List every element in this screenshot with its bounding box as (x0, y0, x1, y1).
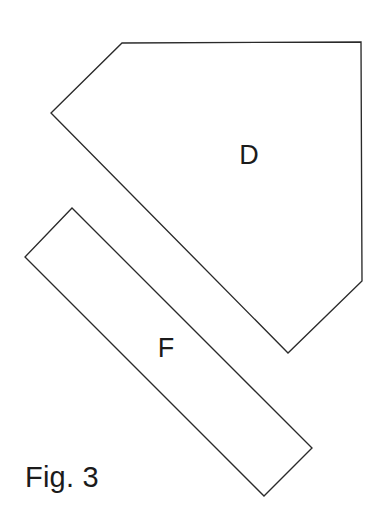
figure-canvas: D F Fig. 3 (0, 0, 389, 526)
figure-drawing: D F Fig. 3 (0, 0, 389, 526)
part-label-d: D (239, 140, 259, 170)
figure-caption: Fig. 3 (25, 461, 99, 493)
part-label-f: F (158, 333, 175, 363)
